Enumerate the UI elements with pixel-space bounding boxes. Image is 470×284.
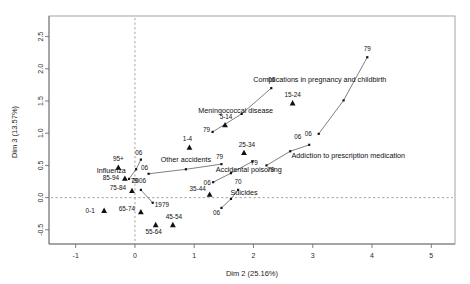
correspondence-analysis-plot: -1012345 -0.50.00.51.01.52.02.5 0-11-45-… — [0, 0, 470, 284]
y-axis-title: Dim 3 (13.57%) — [10, 105, 19, 158]
x-tick-label: 5 — [429, 252, 433, 259]
trajectory-line — [141, 190, 153, 203]
year-label: 70 — [235, 178, 243, 185]
x-tick-label: 1 — [192, 252, 196, 259]
age-group-marker — [207, 192, 213, 197]
y-axis-ticks: -0.50.00.51.01.52.02.5 — [37, 32, 49, 236]
year-label: 06 — [213, 209, 221, 216]
age-group-label: 95+ — [113, 155, 124, 162]
age-group-label: 0-1 — [85, 207, 95, 214]
trajectory-point — [140, 189, 142, 191]
year-label: 79 — [267, 166, 275, 173]
chart-canvas: -1012345 -0.50.00.51.01.52.02.5 0-11-45-… — [0, 0, 470, 284]
x-tick-label: 0 — [133, 252, 137, 259]
trajectory-point — [147, 173, 149, 175]
age-group-marker — [122, 175, 128, 180]
age-group-label: 15-24 — [284, 91, 301, 98]
trajectory-point — [270, 87, 272, 89]
age-group-label: 1-4 — [183, 135, 193, 142]
variable-label: Meningococcal disease — [198, 106, 273, 115]
x-axis-title: Dim 2 (25.16%) — [226, 269, 279, 278]
x-tick-label: 3 — [311, 252, 315, 259]
y-tick-label: 0.0 — [37, 193, 44, 203]
trajectory-point — [135, 168, 137, 170]
variable-label: Other accidents — [161, 155, 212, 164]
y-tick-label: -0.5 — [37, 224, 44, 236]
age-group-label: 65-74 — [119, 205, 136, 212]
age-group-marker — [101, 208, 107, 213]
x-tick-label: 2 — [252, 252, 256, 259]
age-group-label: 85-94 — [103, 174, 120, 181]
year-label: 06 — [268, 76, 276, 83]
trajectory-line — [319, 57, 368, 134]
year-label: 2006 — [132, 177, 147, 184]
variable-label: Addiction to prescription medication — [292, 151, 405, 160]
year-label: 79 — [251, 159, 259, 166]
year-label: 06 — [294, 133, 302, 140]
trajectory-point — [211, 131, 213, 133]
age-group-marker — [153, 222, 159, 227]
variable-label: Influenza — [97, 166, 126, 175]
age-group-label: 55-64 — [146, 228, 163, 235]
age-group-marker — [290, 100, 296, 105]
age-group-marker — [187, 144, 193, 149]
trajectory-point — [140, 159, 142, 161]
year-label: 79 — [216, 153, 224, 160]
year-label: 06 — [135, 149, 143, 156]
age-group-label: 25-34 — [239, 141, 256, 148]
year-label: 06 — [305, 130, 313, 137]
trajectory-point — [318, 133, 320, 135]
year-label: 1979 — [155, 201, 170, 208]
age-group-marker — [170, 222, 176, 227]
trajectory-point — [342, 99, 344, 101]
x-tick-label: 4 — [370, 252, 374, 259]
trajectory-point — [230, 198, 232, 200]
age-group-label: 35-44 — [189, 185, 206, 192]
x-axis-ticks: -1012345 — [73, 244, 434, 259]
trajectory-point — [308, 144, 310, 146]
trajectory-point — [212, 181, 214, 183]
x-tick-label: -1 — [73, 252, 79, 259]
year-label: 06 — [204, 179, 212, 186]
y-tick-label: 1.0 — [37, 128, 44, 138]
trajectory-point — [366, 56, 368, 58]
trajectory-point — [152, 202, 154, 204]
age-group-marker — [138, 209, 144, 214]
y-tick-label: 0.5 — [37, 160, 44, 170]
plot-border — [49, 16, 455, 244]
y-tick-label: 2.0 — [37, 64, 44, 74]
trajectory-point — [128, 178, 130, 180]
age-group-marker — [129, 188, 135, 193]
variable-label: Suicides — [230, 188, 258, 197]
trajectory-point — [220, 207, 222, 209]
year-label: 79 — [364, 45, 372, 52]
year-label: 06 — [141, 164, 149, 171]
reference-lines — [51, 18, 453, 242]
y-tick-label: 1.5 — [37, 96, 44, 106]
plot-frame — [49, 16, 455, 244]
age-group-label: 45-54 — [166, 213, 183, 220]
age-group-marker — [241, 150, 247, 155]
age-group-label: 75-84 — [110, 184, 127, 191]
y-tick-label: 2.5 — [37, 32, 44, 42]
trajectory-point — [185, 168, 187, 170]
year-label: 79 — [203, 126, 211, 133]
